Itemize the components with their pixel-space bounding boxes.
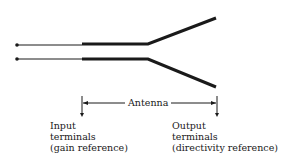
input-label-line-2: terminals [50,131,128,142]
input-terminals-label: Input terminals (gain reference) [50,120,128,153]
output-terminals-label: Output terminals (directivity reference) [172,120,278,153]
antenna-arm-top [82,18,216,44]
input-label-line-3: (gain reference) [50,142,128,153]
input-marker-arrow-icon [80,113,84,117]
antenna-arm-bottom [82,59,216,87]
span-arrow-left-icon [83,101,88,105]
output-label-line-1: Output [172,120,278,131]
output-label-line-3: (directivity reference) [172,142,278,153]
span-arrow-right-icon [211,101,216,105]
antenna-diagram: Antenna Input terminals (gain reference)… [0,0,283,159]
output-marker-arrow-icon [215,113,219,117]
output-label-line-2: terminals [172,131,278,142]
input-label-line-1: Input [50,120,128,131]
antenna-span-label: Antenna [125,97,171,108]
